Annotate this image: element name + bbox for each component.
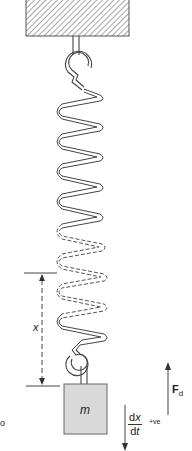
- bottom-hook: [66, 350, 88, 384]
- force-symbol: F: [172, 383, 179, 395]
- velocity-numerator: dx: [128, 412, 142, 425]
- force-subscript: d: [179, 389, 183, 398]
- displacement-dimension: [24, 273, 60, 386]
- force-arrow: [165, 362, 171, 415]
- top-hook: [66, 36, 92, 90]
- mass-label: m: [80, 404, 90, 416]
- velocity-fraction: dx dt: [128, 412, 142, 437]
- edge-label: o: [0, 419, 5, 428]
- force-label: Fd: [172, 384, 183, 398]
- spring-solid-upper: [57, 89, 103, 228]
- spring-solid-lower: [57, 314, 107, 350]
- velocity-sign-label: +ve: [149, 418, 160, 425]
- spring-mass-diagram: [0, 0, 192, 451]
- numerator-var: x: [135, 411, 141, 423]
- displacement-label: x: [33, 322, 39, 333]
- fixed-support: [26, 0, 129, 36]
- denominator-var: t: [136, 425, 139, 437]
- spring-dashed-middle: [57, 224, 107, 318]
- velocity-denominator: dt: [130, 425, 139, 437]
